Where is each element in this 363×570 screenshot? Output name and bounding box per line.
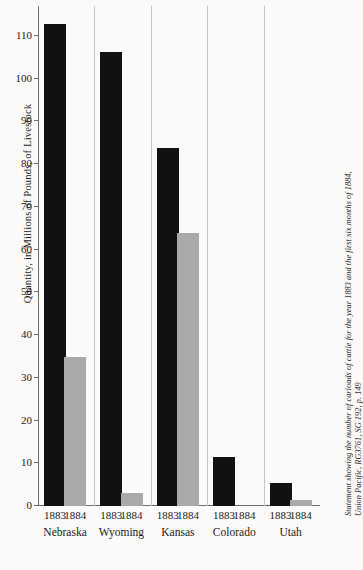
bar-colorado-1883: [213, 457, 235, 506]
bar-kansas-1884: [177, 233, 199, 507]
y-tick-label: 40: [21, 328, 32, 340]
x-group-label-wyoming: Wyoming: [99, 526, 144, 538]
bar-wyoming-1884: [121, 493, 143, 506]
y-tick-mark: [34, 78, 38, 79]
y-tick-mark: [34, 206, 38, 207]
plot-area: 0102030405060708090100110: [38, 6, 320, 506]
y-tick: 50: [38, 291, 39, 292]
y-axis-line: [38, 6, 39, 506]
bar-utah-1883: [270, 483, 292, 507]
y-tick: 0: [38, 505, 39, 506]
y-tick-mark: [34, 35, 38, 36]
y-tick-mark: [34, 291, 38, 292]
x-tick-year: 1884: [290, 509, 312, 521]
y-tick: 60: [38, 249, 39, 250]
x-tick-year: 1884: [121, 509, 143, 521]
y-tick-label: 100: [16, 72, 33, 84]
x-tick-year: 1884: [64, 509, 86, 521]
y-tick-label: 50: [21, 285, 32, 297]
x-tick-year: 1884: [233, 509, 255, 521]
x-group-label-utah: Utah: [279, 526, 301, 538]
caption-line-2: Union Pacific, RG3761, SG 192, p. 149: [354, 382, 363, 516]
x-tick-year: 1883: [213, 509, 235, 521]
x-tick-year: 1883: [100, 509, 122, 521]
x-axis-labels: 18831884Nebraska18831884Wyoming18831884K…: [38, 509, 320, 555]
x-tick-year: 1883: [270, 509, 292, 521]
y-tick-label: 110: [16, 29, 32, 41]
x-tick-year: 1883: [157, 509, 179, 521]
y-tick-label: 10: [21, 456, 32, 468]
x-group-label-kansas: Kansas: [161, 526, 194, 538]
panel-separator: [207, 6, 208, 506]
x-tick-year: 1884: [177, 509, 199, 521]
y-tick: 10: [38, 462, 39, 463]
y-tick: 20: [38, 420, 39, 421]
y-tick: 90: [38, 120, 39, 121]
y-tick: 100: [38, 78, 39, 79]
y-tick-mark: [34, 163, 38, 164]
y-tick-mark: [34, 505, 38, 506]
y-tick-label: 30: [21, 371, 32, 383]
panel-separator: [151, 6, 152, 506]
y-tick-label: 20: [21, 414, 32, 426]
caption-line-1: Statement showing the number of carloads…: [344, 171, 353, 516]
bar-kansas-1883: [157, 148, 179, 506]
bar-nebraska-1883: [44, 24, 66, 506]
y-tick-mark: [34, 462, 38, 463]
y-tick-label: 70: [21, 200, 32, 212]
bar-utah-1884: [290, 500, 312, 506]
panel-separator: [264, 6, 265, 506]
y-tick: 110: [38, 35, 39, 36]
y-tick-label: 60: [21, 243, 32, 255]
y-tick-label: 90: [21, 114, 32, 126]
y-tick-mark: [34, 120, 38, 121]
y-tick-mark: [34, 377, 38, 378]
y-tick: 80: [38, 163, 39, 164]
x-group-label-colorado: Colorado: [213, 526, 256, 538]
y-tick-label: 80: [21, 157, 32, 169]
bar-wyoming-1883: [100, 52, 122, 506]
y-tick-mark: [34, 249, 38, 250]
x-tick-year: 1883: [44, 509, 66, 521]
y-tick-mark: [34, 420, 38, 421]
panel-separator: [94, 6, 95, 506]
y-tick: 30: [38, 377, 39, 378]
y-tick-label: 0: [27, 499, 33, 511]
y-tick-mark: [34, 334, 38, 335]
x-group-label-nebraska: Nebraska: [43, 526, 86, 538]
bar-nebraska-1884: [64, 357, 86, 506]
y-tick: 40: [38, 334, 39, 335]
y-tick: 70: [38, 206, 39, 207]
